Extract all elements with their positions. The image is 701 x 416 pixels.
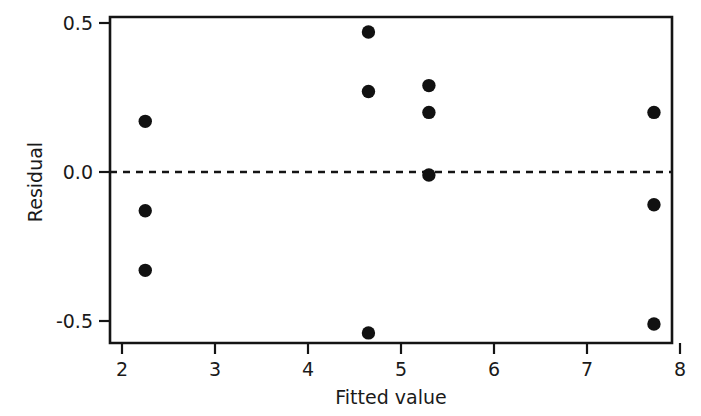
x-axis-title: Fitted value <box>335 386 446 408</box>
y-tick-label--0p5: -0.5 <box>56 310 93 332</box>
data-point <box>422 168 435 181</box>
residual-plot-figure: 2345678 0.50.0-0.5 Fitted value Residual <box>0 0 701 416</box>
y-tick-label-0p5: 0.5 <box>63 12 93 34</box>
plot-border <box>110 17 672 343</box>
data-point <box>362 25 375 38</box>
data-point <box>139 264 152 277</box>
y-axis-tick-marks <box>99 23 110 321</box>
x-tick-label-6: 6 <box>488 358 500 380</box>
x-tick-label-2: 2 <box>116 358 128 380</box>
data-point <box>647 317 660 330</box>
x-tick-label-3: 3 <box>209 358 221 380</box>
y-axis-title: Residual <box>24 142 46 222</box>
data-point <box>647 106 660 119</box>
data-point-series <box>139 25 661 339</box>
x-tick-label-8: 8 <box>674 358 686 380</box>
y-axis-tick-labels: 0.50.0-0.5 <box>56 12 93 332</box>
x-axis-tick-labels: 2345678 <box>116 358 686 380</box>
x-axis-tick-marks <box>122 343 680 354</box>
data-point <box>647 198 660 211</box>
x-tick-label-5: 5 <box>395 358 407 380</box>
data-point <box>139 204 152 217</box>
data-point <box>422 79 435 92</box>
plot-frame <box>110 17 672 343</box>
x-tick-label-7: 7 <box>581 358 593 380</box>
scatter-plot-canvas: 2345678 0.50.0-0.5 Fitted value Residual <box>0 0 701 416</box>
data-point <box>422 106 435 119</box>
data-point <box>139 115 152 128</box>
y-tick-label-0: 0.0 <box>63 161 93 183</box>
data-point <box>362 85 375 98</box>
x-tick-label-4: 4 <box>302 358 314 380</box>
data-point <box>362 326 375 339</box>
